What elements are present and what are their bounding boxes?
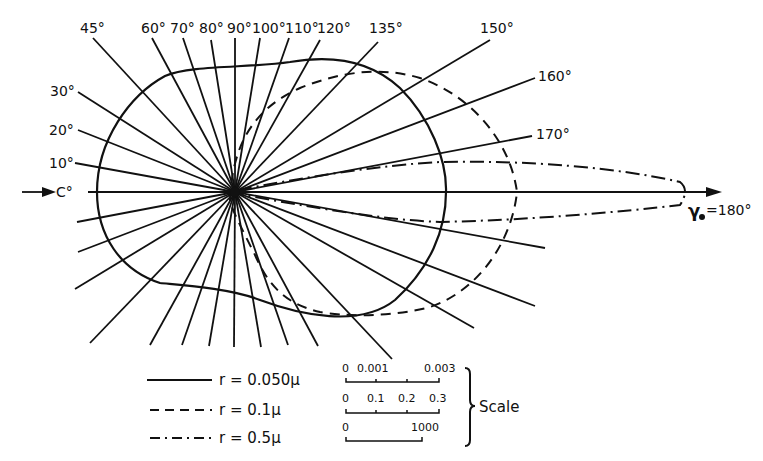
angle-label-110: 110° — [285, 20, 319, 36]
center-point — [230, 187, 240, 197]
angle-label-80: 80° — [199, 20, 224, 36]
angle-label-30: 30° — [50, 83, 75, 99]
angle-label-170: 170° — [536, 126, 570, 142]
scale2-tick-1: 0.1 — [367, 392, 385, 405]
scale1-tick-2: 0.003 — [424, 362, 456, 375]
incident-arrow — [22, 187, 56, 197]
ray-70 — [183, 38, 235, 192]
scale-labels: 0 0.001 0.003 0 0.1 0.2 0.3 0 1000 — [342, 362, 456, 434]
legend-item-solid: r = 0.050μ — [147, 371, 300, 389]
scale2-tick-0: 0 — [342, 392, 349, 405]
forward-label: γ =180° — [688, 200, 751, 221]
legend-label: r = 0.050μ — [219, 371, 300, 389]
scale-title: Scale — [479, 398, 519, 416]
scale-bars — [346, 368, 475, 446]
ray-160 — [235, 78, 535, 192]
angle-label-120: 120° — [317, 20, 351, 36]
legend-label: r = 0.1μ — [219, 401, 281, 419]
scale2-tick-2: 0.2 — [398, 392, 416, 405]
angle-label-10: 10° — [49, 155, 74, 171]
curve-r-01-dashed — [230, 72, 517, 316]
scattering-diagram: 10° 20° 30° 45° 60° 70° 80° 90° 100° 110… — [0, 0, 763, 461]
radial-lines — [75, 38, 710, 359]
scale3-tick-0: 0 — [342, 421, 349, 434]
angle-label-70: 70° — [170, 20, 195, 36]
scale1-tick-1: 0.001 — [357, 362, 389, 375]
angle-label-90: 90° — [227, 20, 252, 36]
scale1-tick-0: 0 — [342, 362, 349, 375]
angle-label-100: 100° — [252, 20, 286, 36]
angle-label-135: 135° — [369, 20, 403, 36]
forward-arrow-head — [706, 187, 722, 197]
scale3-tick-1: 1000 — [411, 421, 439, 434]
legend-item-dashed: r = 0.1μ — [150, 401, 281, 419]
angle-label-160: 160° — [538, 68, 572, 84]
legend: r = 0.050μ r = 0.1μ r = 0.5μ — [147, 371, 300, 447]
angle-label-20: 20° — [49, 122, 74, 138]
gamma-symbol: γ — [688, 200, 700, 221]
gamma-value: =180° — [706, 202, 751, 218]
scale2-tick-3: 0.3 — [429, 392, 447, 405]
legend-label: r = 0.5μ — [219, 429, 281, 447]
angle-label-150: 150° — [480, 20, 514, 36]
legend-item-dashdot: r = 0.5μ — [150, 429, 281, 447]
angle-label-0: C° — [56, 184, 73, 200]
angle-label-45: 45° — [80, 20, 105, 36]
angle-label-60: 60° — [141, 20, 166, 36]
